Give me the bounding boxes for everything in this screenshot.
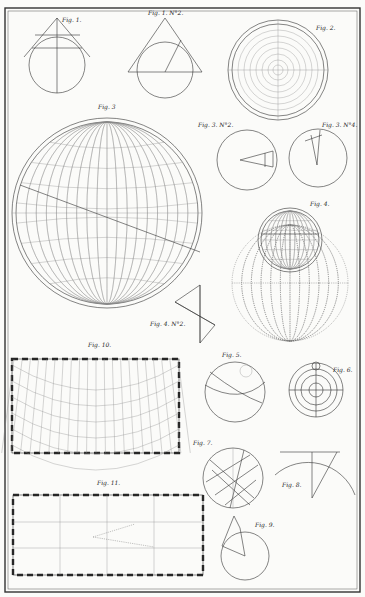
caption-fig3-no4: Fig. 3. N°4. — [321, 121, 357, 129]
figure-4 — [232, 208, 348, 341]
caption-fig2: Fig. 2. — [315, 24, 336, 32]
grid-line — [77, 359, 79, 453]
figure-11 — [13, 495, 203, 575]
figure-5 — [205, 362, 265, 422]
grid-line — [104, 359, 105, 453]
caption-fig8: Fig. 8. — [281, 481, 302, 489]
caption-fig3: Fig. 3 — [97, 103, 116, 111]
grid-line — [162, 359, 172, 453]
caption-fig4-no2: Fig. 4. N°2. — [149, 320, 185, 328]
caption-fig6: Fig. 6. — [332, 366, 353, 374]
plate-inner-border — [8, 11, 357, 589]
caption-fig4: Fig. 4. — [309, 200, 330, 208]
grid-line — [68, 359, 72, 453]
grid-arc — [12, 397, 179, 422]
figure-1-no2 — [128, 18, 202, 98]
grid-arc — [12, 445, 179, 470]
grid-line — [30, 359, 39, 453]
figure-3 — [12, 118, 202, 308]
caption-fig10: Fig. 10. — [87, 341, 111, 349]
grid-line — [129, 359, 134, 453]
figure-8 — [275, 452, 355, 498]
caption-fig5: Fig. 5. — [221, 351, 242, 359]
plate-drawing: Fig. 1. Fig. 1. N°2. Fig. 2. Fig. 3 Fig.… — [0, 0, 365, 597]
caption-fig3-no2: Fig. 3. N°2. — [197, 121, 233, 129]
figure-10 — [2, 359, 191, 470]
grid-arc — [12, 413, 179, 438]
grid-arc — [12, 381, 179, 406]
plate-border — [5, 8, 360, 592]
grid-arc — [12, 429, 179, 454]
engraved-plate: Fig. 1. Fig. 1. N°2. Fig. 2. Fig. 3 Fig.… — [0, 0, 365, 597]
figure-7 — [203, 448, 263, 508]
caption-fig9: Fig. 9. — [254, 521, 275, 529]
grid-line — [87, 359, 88, 453]
grid-line — [112, 359, 114, 453]
grid-line — [121, 359, 125, 453]
grid-line — [145, 359, 152, 453]
figure-3-no2 — [217, 130, 277, 190]
figure-3-no4 — [289, 129, 347, 187]
grid-line — [58, 359, 63, 453]
figure-1 — [24, 18, 90, 93]
caption-fig11: Fig. 11. — [96, 479, 120, 487]
grid-line — [39, 359, 46, 453]
figure-4-no2 — [175, 285, 215, 343]
caption-fig1: Fig. 1. — [61, 16, 82, 24]
grid-line — [49, 359, 55, 453]
caption-fig1-no2: Fig. 1. N°2. — [147, 9, 183, 17]
caption-fig7: Fig. 7. — [192, 439, 213, 447]
grid-line — [137, 359, 143, 453]
figure-2 — [228, 20, 328, 120]
